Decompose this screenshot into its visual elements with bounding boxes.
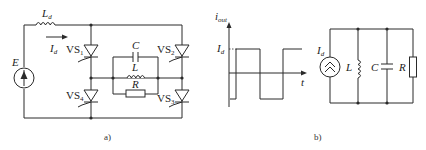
- capacitor-c-b-icon: [381, 64, 393, 69]
- xlabel-t: t: [301, 76, 305, 88]
- label-id-level: Id: [216, 42, 225, 56]
- caption-a: a): [104, 132, 111, 142]
- waveform-plot: iout Id t: [215, 10, 307, 107]
- square-wave-line: [230, 49, 302, 99]
- label-e: E: [11, 56, 19, 68]
- label-id: Id: [49, 42, 58, 56]
- caption-b: b): [314, 132, 322, 142]
- circuit-b: Id L C R b): [314, 27, 417, 142]
- figure-canvas: Ld Id E VS1 VS2 VS4 VS3 C L R a) iout Id…: [0, 0, 426, 150]
- label-r: R: [131, 78, 139, 90]
- ylabel-iout: iout: [215, 10, 228, 24]
- label-vs3: VS3: [157, 92, 175, 106]
- label-ld: Ld: [41, 7, 52, 21]
- label-id-source: Id: [316, 44, 325, 58]
- label-vs2: VS2: [157, 43, 175, 57]
- voltage-source-e-icon: [14, 68, 34, 88]
- current-arrow-icon: [46, 35, 68, 40]
- label-l: L: [131, 61, 138, 73]
- label-c-b: C: [371, 61, 379, 73]
- label-l-b: L: [345, 61, 352, 73]
- inductor-ld-icon: [36, 23, 55, 26]
- inductor-l-b-icon: [358, 60, 361, 78]
- current-source-id-icon: [320, 57, 340, 77]
- resistor-r-icon: [126, 90, 145, 97]
- label-c: C: [132, 39, 140, 51]
- label-vs4: VS4: [66, 89, 84, 103]
- label-vs1: VS1: [66, 43, 84, 57]
- circuit-a: Ld Id E VS1 VS2 VS4 VS3 C L R a): [11, 7, 189, 142]
- label-r-b: R: [398, 61, 406, 73]
- resistor-r-b-icon: [410, 57, 417, 77]
